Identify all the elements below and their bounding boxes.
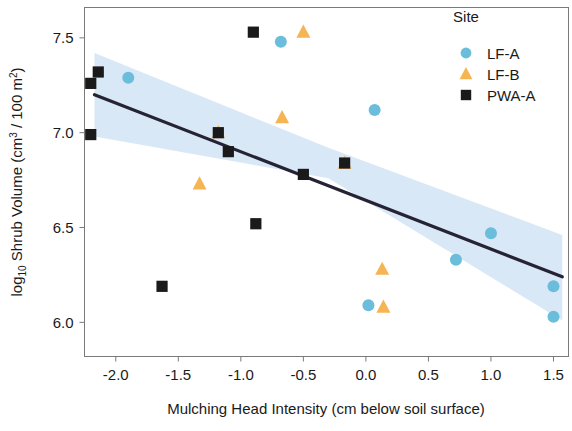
data-point-lf-a-5: [547, 280, 559, 292]
data-point-pwa-a-7: [250, 218, 261, 229]
y-axis-title-mid-2: / 100 m: [8, 78, 25, 132]
x-tick-label-4: 0.0: [355, 366, 376, 383]
scatter-plot: -2.0-1.5-1.0-0.50.00.51.01.5 6.06.57.07.…: [0, 0, 572, 431]
legend-marker-pwa-a[interactable]: [461, 90, 471, 100]
data-point-lf-a-3: [450, 254, 462, 266]
data-point-pwa-a-0: [85, 78, 96, 89]
chart-figure: -2.0-1.5-1.0-0.50.00.51.01.5 6.06.57.07.…: [0, 0, 572, 431]
y-tick-label-0: 6.0: [53, 314, 74, 331]
data-point-lf-a-0: [122, 72, 134, 84]
data-point-lf-a-7: [362, 299, 374, 311]
data-point-pwa-a-9: [339, 157, 350, 168]
data-point-lf-a-2: [369, 104, 381, 116]
x-tick-label-5: 0.5: [418, 366, 439, 383]
y-axis-title-prefix: log: [8, 276, 25, 296]
legend-label-lf-b[interactable]: LF-B: [487, 66, 520, 83]
data-point-pwa-a-6: [248, 27, 259, 38]
y-axis-title-suffix: ): [8, 67, 25, 72]
data-point-pwa-a-4: [213, 127, 224, 138]
legend-title: Site: [453, 8, 479, 25]
y-tick-label-2: 7.0: [53, 124, 74, 141]
y-tick-label-3: 7.5: [53, 29, 74, 46]
data-point-pwa-a-5: [223, 146, 234, 157]
data-point-pwa-a-1: [93, 66, 104, 77]
data-point-lf-a-6: [547, 311, 559, 323]
legend-marker-lf-a[interactable]: [461, 48, 472, 59]
x-axis-title: Mulching Head Intensity (cm below soil s…: [167, 400, 485, 417]
data-point-lf-a-4: [485, 227, 497, 239]
x-tick-label-3: -0.5: [290, 366, 316, 383]
legend-label-lf-a[interactable]: LF-A: [487, 45, 520, 62]
x-tick-label-1: -1.5: [165, 366, 191, 383]
data-point-pwa-a-8: [298, 169, 309, 180]
y-tick-label-1: 6.5: [53, 219, 74, 236]
x-tick-label-7: 1.5: [543, 366, 564, 383]
x-tick-label-0: -2.0: [103, 366, 129, 383]
y-axis-title-mid: Shrub Volume (cm: [8, 138, 25, 266]
data-point-pwa-a-2: [85, 129, 96, 140]
y-axis-title-sub: 10: [17, 265, 28, 277]
x-tick-label-6: 1.0: [481, 366, 502, 383]
x-tick-label-2: -1.0: [228, 366, 254, 383]
data-point-lf-a-1: [275, 36, 287, 48]
data-point-pwa-a-3: [156, 281, 167, 292]
legend-label-pwa-a[interactable]: PWA-A: [487, 87, 536, 104]
